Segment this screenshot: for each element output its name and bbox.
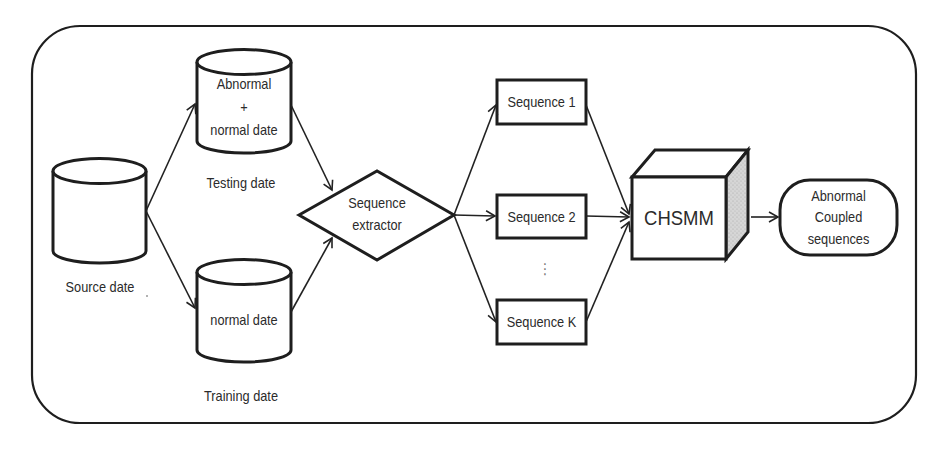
output-line3: sequences	[787, 229, 890, 249]
source-database-icon	[53, 159, 146, 264]
sequence-ellipsis: ⋮	[503, 256, 587, 282]
extractor-line2: extractor	[336, 215, 419, 235]
extractor-line1: Sequence	[336, 193, 419, 213]
training-inner: normal date	[203, 310, 286, 330]
testing-inner-line1: Abnormal	[203, 74, 286, 94]
chsmm-label: CHSMM	[638, 205, 721, 231]
sequence-1-label: Sequence 1	[502, 92, 580, 112]
sequence-k-label: Sequence K	[502, 312, 580, 332]
testing-inner-line2: +	[203, 97, 286, 117]
testing-caption: Testing date	[193, 173, 288, 193]
training-caption: Training date	[193, 386, 288, 406]
speck	[146, 295, 148, 297]
output-line2: Coupled	[787, 207, 890, 227]
output-line1: Abnormal	[787, 186, 890, 206]
source-caption: Source date	[56, 277, 144, 297]
sequence-2-label: Sequence 2	[502, 207, 580, 227]
testing-inner-line3: normal date	[203, 120, 286, 140]
